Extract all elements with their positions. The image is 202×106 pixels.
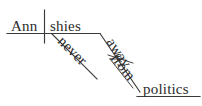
- word-preposition-from: from: [108, 50, 139, 84]
- diagram-canvas: Ann shies never away from politics: [0, 0, 202, 106]
- sentence-diagram: Ann shies never away from politics: [0, 0, 202, 106]
- word-adverb-never: never: [55, 33, 91, 69]
- word-object-politics: politics: [143, 81, 189, 97]
- word-verb-shies: shies: [50, 18, 81, 34]
- word-subject-ann: Ann: [11, 18, 38, 34]
